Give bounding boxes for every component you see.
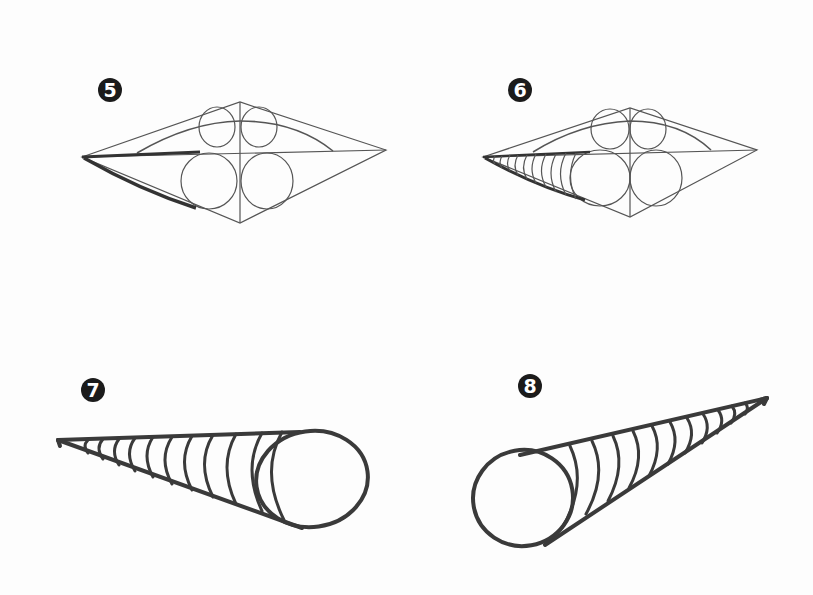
tutorial-figure: 5 6 7 8 — [0, 0, 813, 595]
step-8-cone-drawing — [465, 398, 767, 554]
step-6-lips-drawing — [483, 108, 757, 217]
step-7-cone-drawing — [58, 424, 374, 535]
step-5-lips-drawing — [82, 102, 386, 223]
drawing-canvas — [0, 0, 813, 595]
